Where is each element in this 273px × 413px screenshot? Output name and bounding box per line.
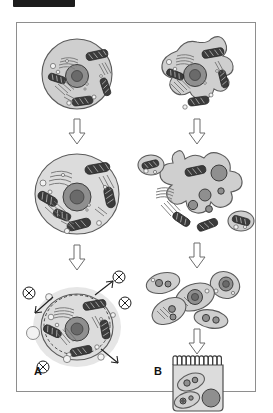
detached-cell-left bbox=[138, 155, 164, 175]
stage-a3 bbox=[17, 271, 137, 377]
stage-b4 bbox=[137, 355, 257, 413]
stage-a1 bbox=[17, 31, 137, 117]
panel-b-label: B bbox=[154, 365, 162, 377]
arrow-a2-a3 bbox=[67, 245, 87, 271]
arrow-a1-a2 bbox=[67, 119, 87, 145]
stage-b2 bbox=[137, 147, 257, 241]
redaction-bar bbox=[13, 0, 75, 7]
panel-a: A bbox=[17, 23, 137, 391]
detached-cell-right bbox=[228, 211, 254, 231]
cell-a1 bbox=[42, 39, 112, 109]
signal-marker-2 bbox=[113, 271, 125, 283]
cell-b1 bbox=[162, 37, 233, 110]
signal-marker-3 bbox=[119, 297, 131, 309]
daughter-cell-1 bbox=[144, 269, 182, 297]
cell-a2 bbox=[35, 154, 119, 234]
stage-b1 bbox=[137, 29, 257, 119]
panel-b: B bbox=[137, 23, 257, 391]
arrow-b1-b2 bbox=[187, 119, 207, 145]
figure-frame: A bbox=[16, 22, 256, 392]
epithelial-tissue-block bbox=[172, 356, 223, 411]
microvilli-icon bbox=[173, 356, 221, 365]
signal-marker-1 bbox=[23, 287, 35, 299]
stage-a2 bbox=[17, 147, 137, 243]
daughter-cell-5 bbox=[193, 307, 230, 331]
tissue-cell-3 bbox=[202, 389, 220, 407]
arrow-b2-b3 bbox=[187, 243, 207, 269]
panel-a-label: A bbox=[34, 365, 42, 377]
arrow-b3-b4 bbox=[187, 329, 207, 355]
stage-b3 bbox=[137, 269, 257, 331]
